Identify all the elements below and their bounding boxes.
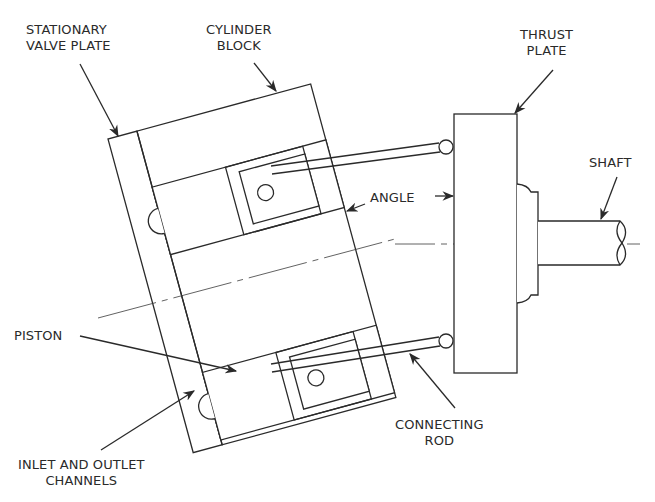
piston-leader bbox=[80, 336, 236, 371]
label-cylinder-block: CYLINDER BLOCK bbox=[206, 22, 272, 54]
label-shaft: SHAFT bbox=[589, 155, 632, 171]
pump-diagram bbox=[0, 0, 655, 502]
cylinder-block-leader bbox=[254, 63, 276, 91]
label-angle: ANGLE bbox=[370, 190, 415, 206]
block-centerline bbox=[98, 239, 395, 318]
thrust-plate bbox=[454, 114, 538, 373]
cylinder-block-assembly bbox=[108, 84, 396, 453]
label-connecting-rod: CONNECTING ROD bbox=[395, 417, 484, 449]
label-piston: PISTON bbox=[14, 328, 62, 344]
shaft-leader bbox=[601, 177, 617, 219]
valve-plate-leader bbox=[80, 64, 118, 136]
label-thrust-plate: THRUST PLATE bbox=[520, 27, 573, 59]
channels-leader bbox=[101, 391, 194, 450]
label-stationary-valve-plate: STATIONARY VALVE PLATE bbox=[26, 22, 111, 54]
label-inlet-outlet-channels: INLET AND OUTLET CHANNELS bbox=[18, 457, 145, 489]
thrust-plate-hub bbox=[517, 184, 538, 303]
thrust-plate-leader bbox=[515, 70, 553, 113]
shaft bbox=[538, 221, 626, 265]
angle-leader-left bbox=[347, 204, 365, 211]
connecting-rod-leader bbox=[410, 354, 455, 408]
